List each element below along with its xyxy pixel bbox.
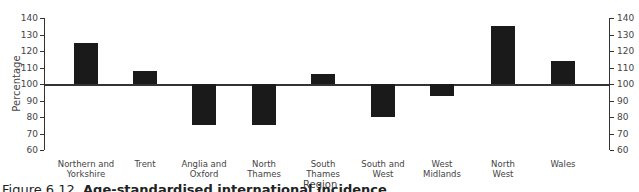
- left-tick: [40, 51, 44, 52]
- right-tick-label: 100: [617, 79, 634, 89]
- bar-west-midlands: [430, 84, 454, 96]
- right-tick: [610, 101, 614, 102]
- figure-caption: Figure 6.12 Age-standardised internation…: [2, 182, 387, 192]
- right-tick-label: 70: [617, 129, 628, 139]
- y-axis-label: Percentage: [11, 54, 22, 114]
- caption-title: Age-standardised international incidence: [83, 182, 387, 192]
- caption-prefix: Figure 6.12: [2, 182, 75, 192]
- left-tick-label: 80: [14, 112, 38, 122]
- right-tick-label: 110: [617, 63, 634, 73]
- left-tick: [40, 68, 44, 69]
- left-tick-label: 70: [14, 129, 38, 139]
- category-label: Wales: [528, 159, 598, 179]
- right-tick: [610, 35, 614, 36]
- right-tick: [610, 150, 614, 151]
- bar-south-thames: [311, 74, 335, 84]
- right-tick: [610, 51, 614, 52]
- right-tick: [610, 84, 614, 85]
- right-tick-label: 120: [617, 46, 634, 56]
- left-tick: [40, 117, 44, 118]
- bar-wales: [551, 61, 575, 84]
- category-label: WestMidlands: [407, 159, 477, 179]
- right-tick: [610, 18, 614, 19]
- bar-anglia-and-oxford: [192, 84, 216, 125]
- left-tick: [40, 101, 44, 102]
- bar-north-thames: [252, 84, 276, 125]
- left-tick-label: 60: [14, 145, 38, 155]
- right-tick-label: 90: [617, 96, 628, 106]
- right-tick: [610, 68, 614, 69]
- right-tick-label: 80: [617, 112, 628, 122]
- left-tick: [40, 35, 44, 36]
- left-tick: [40, 134, 44, 135]
- left-tick: [40, 150, 44, 151]
- right-tick-label: 60: [617, 145, 628, 155]
- baseline-100: [44, 84, 610, 86]
- left-tick-label: 140: [14, 13, 38, 23]
- right-tick-label: 140: [617, 13, 634, 23]
- left-tick-label: 130: [14, 30, 38, 40]
- right-tick: [610, 117, 614, 118]
- bar-northern-and-yorkshire: [74, 43, 98, 84]
- bar-trent: [133, 71, 157, 84]
- bar-south-and-west: [371, 84, 395, 117]
- right-tick-label: 130: [617, 30, 634, 40]
- left-tick: [40, 18, 44, 19]
- right-tick: [610, 134, 614, 135]
- bar-north-west: [491, 26, 515, 84]
